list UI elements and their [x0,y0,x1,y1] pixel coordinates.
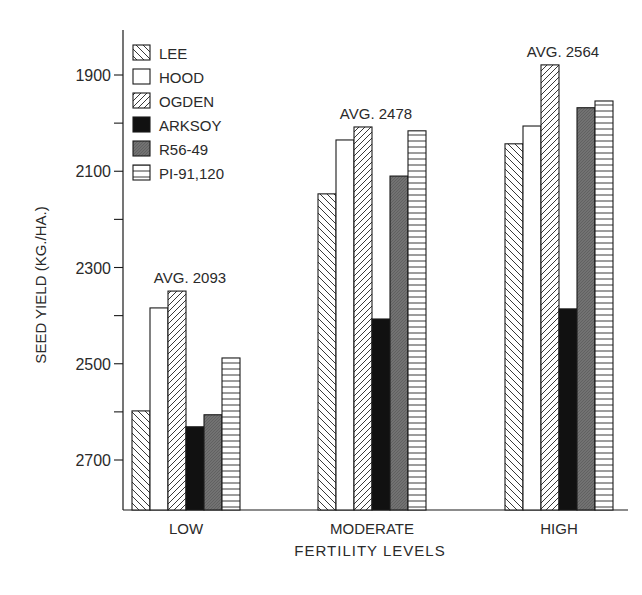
legend-item: HOOD [133,69,204,86]
legend-item: R56-49 [133,141,208,158]
bar-lee-low [132,411,150,510]
legend: LEEHOODOGDENARKSOYR56-49PI-91,120 [133,45,224,182]
bar-arksoy-high [559,309,577,510]
bar-group-high [505,65,613,510]
y-tick-label: 2500 [75,356,111,373]
legend-label: HOOD [159,69,204,86]
y-tick-label: 2700 [75,452,111,469]
legend-label: ARKSOY [159,117,222,134]
legend-swatch [133,165,150,180]
y-tick-label: 2100 [75,163,111,180]
category-label: HIGH [540,520,578,537]
bar-hood-low [150,308,168,510]
y-tick-label: 1900 [75,67,111,84]
legend-label: OGDEN [159,93,214,110]
average-annotation: AVG. 2478 [340,105,412,122]
bar-ogden-high [541,65,559,510]
legend-item: LEE [133,45,187,62]
bar-r56-49-low [204,415,222,510]
bar-pi-91-120-low [222,358,240,510]
bar-hood-moderate [336,140,354,510]
seed-yield-bar-chart: LEEHOODOGDENARKSOYR56-49PI-91,120 270025… [0,0,642,595]
bar-r56-49-high [577,108,595,510]
average-annotation: AVG. 2564 [527,43,599,60]
legend-swatch [133,69,150,84]
bar-lee-moderate [318,194,336,510]
y-tick-label: 2300 [75,260,111,277]
category-label: MODERATE [330,520,414,537]
legend-label: LEE [159,45,187,62]
x-axis-label: FERTILITY LEVELS [294,542,445,559]
legend-swatch [133,45,150,60]
legend-swatch [133,93,150,108]
bar-hood-high [523,126,541,510]
bar-ogden-moderate [354,127,372,510]
bar-pi-91-120-moderate [408,131,426,510]
legend-label: PI-91,120 [159,165,224,182]
legend-label: R56-49 [159,141,208,158]
legend-swatch [133,141,150,156]
bar-pi-91-120-high [595,101,613,510]
bar-arksoy-moderate [372,319,390,510]
legend-item: OGDEN [133,93,214,110]
legend-item: ARKSOY [133,117,222,134]
y-axis-label: SEED YIELD (KG./HA.) [32,206,49,363]
bar-group-low [132,291,240,510]
bar-r56-49-moderate [390,176,408,510]
legend-swatch [133,117,150,132]
bar-arksoy-low [186,427,204,510]
bar-group-moderate [318,127,426,510]
bar-ogden-low [168,291,186,510]
legend-item: PI-91,120 [133,165,224,182]
bar-lee-high [505,144,523,510]
category-label: LOW [169,520,204,537]
average-annotation: AVG. 2093 [154,269,226,286]
